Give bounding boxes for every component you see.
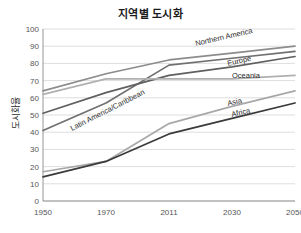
y-tick-label: 60: [30, 94, 39, 103]
x-tick-label: 2011: [160, 208, 178, 217]
y-tick-label: 10: [30, 180, 39, 189]
series-lines: [43, 46, 295, 177]
x-tick-label: 2030: [223, 208, 241, 217]
chart-container: 지역별 도시화 도시화율 0102030405060708090100 1950…: [0, 0, 301, 233]
series-line: [43, 91, 295, 172]
y-tick-label: 50: [30, 111, 39, 120]
y-tick-label: 80: [30, 59, 39, 68]
y-tick-label: 90: [30, 42, 39, 51]
y-tick-label: 20: [30, 163, 39, 172]
y-tick-label: 100: [26, 25, 40, 34]
y-tick-label: 70: [30, 77, 39, 86]
x-tick-label: 2050: [286, 208, 301, 217]
y-axis-tick-labels: 0102030405060708090100: [26, 25, 40, 206]
y-tick-label: 40: [30, 128, 39, 137]
y-tick-label: 30: [30, 145, 39, 154]
series-label: Oceania: [232, 71, 261, 80]
x-tick-label: 1970: [97, 208, 115, 217]
plot-area: 0102030405060708090100 19501970201120302…: [0, 0, 301, 233]
y-tick-label: 0: [35, 197, 40, 206]
x-axis-tick-labels: 19501970201120302050: [34, 208, 301, 217]
series-label: Latin America/Caribbean: [69, 87, 146, 132]
x-tick-label: 1950: [34, 208, 52, 217]
